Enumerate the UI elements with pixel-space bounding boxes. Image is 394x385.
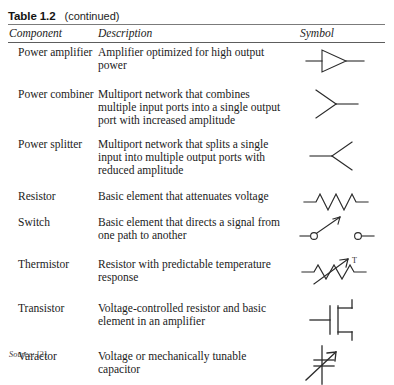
thermistor-label: T [352,256,357,265]
table-row: Switch Basic element that directs a sign… [0,214,394,254]
row-component: Resistor [18,190,100,203]
row-component: Transistor [18,302,100,315]
amplifier-triangle-symbol [296,44,388,78]
switch-symbol [296,212,388,248]
resistor-zigzag-symbol [296,184,388,212]
row-description: Basic element that attenuates voltage [98,190,286,203]
table-row: Thermistor Resistor with predictable tem… [0,254,394,298]
row-description: Voltage-controlled resistor and basic el… [98,302,286,328]
row-description: Multiport network that splits a single i… [98,138,286,178]
table-caption: Table 1.2(continued) [8,6,120,24]
table-source-note: Source: [2] [9,350,47,359]
table-row: Transistor Voltage-controlled resistor a… [0,298,394,346]
table-row: Power amplifier Amplifier optimized for … [0,44,394,84]
source-reference: [2] [37,350,47,359]
column-header-symbol: Symbol [300,27,334,39]
power-combiner-symbol [296,84,388,124]
table-row: Power combiner Multiport network that co… [0,84,394,136]
row-component: Power splitter [18,138,100,151]
row-description: Amplifier optimized for high output powe… [98,46,286,72]
table-row: Power splitter Multiport network that sp… [0,136,394,188]
row-component: Power amplifier [18,46,100,59]
column-header-component: Component [9,27,62,39]
transistor-fet-symbol [296,298,388,342]
row-component: Thermistor [18,258,100,271]
table-row: Resistor Basic element that attenuates v… [0,188,394,214]
table-figure: Table 1.2(continued) Component Descripti… [0,0,394,385]
varactor-diode-symbol [296,342,388,385]
column-header-description: Description [98,27,152,39]
source-label: Source: [9,350,35,359]
table-row: Varactor Voltage or mechanically tunable… [0,346,394,385]
power-splitter-symbol [296,136,388,176]
thermistor-symbol: T [296,254,388,288]
row-description: Resistor with predictable temperature re… [98,258,286,284]
table-caption-label: Table 1.2 [8,10,55,22]
row-description: Basic element that directs a signal from… [98,216,286,242]
row-component: Switch [18,216,100,229]
table-top-rule [8,24,385,25]
row-component: Power combiner [18,88,100,101]
table-caption-note: (continued) [64,10,119,22]
row-description: Multiport network that combines multiple… [98,88,286,128]
table-header-rule [8,42,385,43]
row-description: Voltage or mechanically tunable capacito… [98,350,286,376]
